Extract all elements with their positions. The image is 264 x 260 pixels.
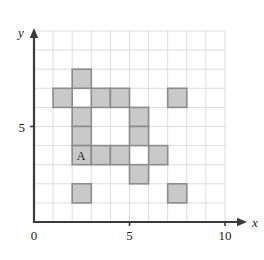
x-axis-arrowhead <box>237 218 247 226</box>
coordinate-plane: A 05105 xy <box>0 0 264 260</box>
shaded-cells: A <box>53 69 187 203</box>
shaded-cell <box>53 88 72 107</box>
x-tick-label: 5 <box>126 228 133 243</box>
y-axis-label: y <box>16 25 24 40</box>
shaded-cell <box>130 107 149 126</box>
x-tick-label: 0 <box>31 228 38 243</box>
shaded-cell <box>168 184 187 203</box>
shaded-cell <box>72 107 91 126</box>
x-axis-label: x <box>251 215 258 230</box>
shaded-cell <box>130 127 149 146</box>
y-tick-label: 5 <box>19 120 26 135</box>
x-tick-label: 10 <box>219 228 232 243</box>
tick-labels: 05105 <box>19 120 232 244</box>
cell-label-a: A <box>77 149 86 163</box>
shaded-cell <box>72 69 91 88</box>
shaded-cell <box>72 184 91 203</box>
shaded-cell <box>168 88 187 107</box>
shaded-cell <box>72 127 91 146</box>
shaded-cell <box>130 165 149 184</box>
shaded-cell <box>91 146 110 165</box>
shaded-cell <box>149 146 168 165</box>
shaded-cell <box>91 88 110 107</box>
y-axis-arrowhead <box>30 28 38 38</box>
shaded-cell <box>110 146 129 165</box>
coordinate-grid-figure: A 05105 xy <box>0 0 264 260</box>
shaded-cell <box>110 88 129 107</box>
